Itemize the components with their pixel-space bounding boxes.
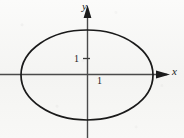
x-axis-label: x xyxy=(172,66,177,77)
plot-canvas xyxy=(0,0,184,138)
x-axis-arrowhead xyxy=(156,71,170,79)
y-axis-label: y xyxy=(82,1,87,12)
x-axis-tick-label-1: 1 xyxy=(97,76,102,86)
figure-ellipse-cartesian: y x 1 1 xyxy=(0,0,184,138)
y-axis-tick-label-1: 1 xyxy=(74,54,79,64)
